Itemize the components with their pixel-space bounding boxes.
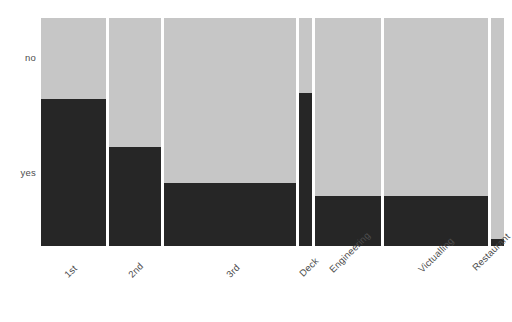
x-tick-label-engineering: Engineering [327,230,372,275]
x-tick-label-deck: Deck [297,255,321,279]
mosaic-plot-figure: no yes 1st 2nd 3rd Deck Engineering Vict… [0,0,512,322]
x-tick-label-3rd: 3rd [224,262,242,280]
x-tick-label-victualling: Victualling [416,235,456,275]
x-tick-label-1st: 1st [62,263,79,280]
x-tick-label-restaurant: Restaurant [470,231,512,273]
x-tick-label-2nd: 2nd [126,260,145,279]
x-axis: 1st 2nd 3rd Deck Engineering Victualling… [0,0,512,322]
